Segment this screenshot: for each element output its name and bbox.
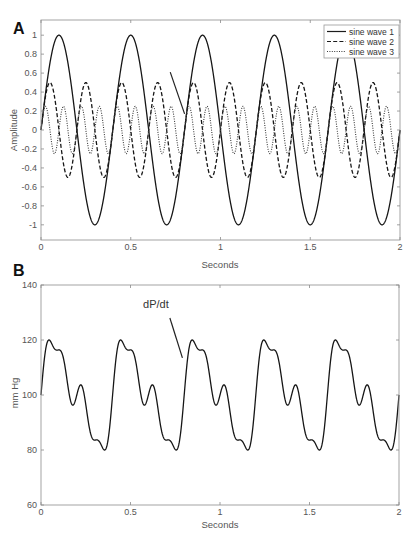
- panel-b-ticks: 00.511.526080100120140: [22, 280, 402, 517]
- panel-a-xlabel: Seconds: [202, 259, 239, 270]
- legend-entry-2: sine wave 2: [349, 37, 394, 47]
- y-tick-label: -1: [29, 220, 37, 230]
- panel-b-ylabel: mm Hg: [9, 378, 20, 409]
- y-tick-label: 0.2: [24, 106, 37, 116]
- legend-entry-3: sine wave 3: [349, 47, 394, 57]
- panel-a: A 00.511.52-1-0.8-0.6-0.4-0.200.20.40.60…: [8, 20, 403, 270]
- legend: sine wave 1 sine wave 2 sine wave 3: [324, 25, 399, 58]
- y-tick-label: 100: [22, 390, 37, 400]
- y-tick-label: 120: [22, 335, 37, 345]
- x-tick-label: 0.5: [124, 242, 137, 252]
- y-tick-label: 60: [27, 500, 37, 510]
- figure: A 00.511.52-1-0.8-0.6-0.4-0.200.20.40.60…: [0, 0, 408, 534]
- dp-dt-annotation: dP/dt: [143, 298, 169, 310]
- x-tick-label: 0: [38, 507, 43, 517]
- series-pressure: [41, 340, 399, 450]
- panel-a-plot-area: [41, 35, 400, 225]
- y-tick-label: 80: [27, 445, 37, 455]
- x-tick-label: 2: [397, 242, 402, 252]
- x-tick-label: 1: [218, 242, 223, 252]
- y-tick-label: -0.2: [21, 144, 37, 154]
- y-tick-label: 0.8: [24, 49, 37, 59]
- x-tick-label: 1.5: [304, 242, 317, 252]
- y-tick-label: 0.6: [24, 68, 37, 78]
- y-tick-label: -0.4: [21, 163, 37, 173]
- panel-b-plot-area: [41, 340, 399, 450]
- panel-a-label: A: [13, 20, 25, 37]
- y-tick-label: 1: [32, 30, 37, 40]
- x-tick-label: 0.5: [124, 507, 137, 517]
- x-tick-label: 0: [38, 242, 43, 252]
- y-tick-label: -0.6: [21, 182, 37, 192]
- x-tick-label: 1: [217, 507, 222, 517]
- panel-a-ylabel: Amplitude: [8, 109, 19, 151]
- panel-b: B 00.511.526080100120140 mm Hg Seconds d…: [9, 262, 402, 530]
- y-tick-label: 0.4: [24, 87, 37, 97]
- legend-entry-1: sine wave 1: [349, 27, 394, 37]
- x-tick-label: 1.5: [303, 507, 316, 517]
- series-sine-wave-2: [41, 83, 400, 178]
- x-tick-label: 2: [396, 507, 401, 517]
- panel-b-annotation-arrow: [170, 318, 183, 358]
- y-tick-label: -0.8: [21, 201, 37, 211]
- y-tick-label: 140: [22, 280, 37, 290]
- panel-b-label: B: [13, 262, 25, 279]
- panel-a-annotation-arrow: [170, 72, 184, 114]
- y-tick-label: 0: [32, 125, 37, 135]
- panel-b-xlabel: Seconds: [202, 519, 239, 530]
